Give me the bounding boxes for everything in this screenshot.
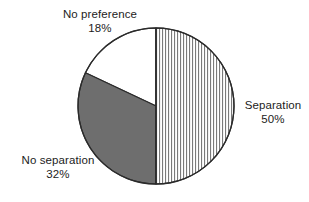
slice-label-no-separation-name: No separation: [6, 154, 110, 168]
pie-slice-separation: [156, 28, 234, 184]
slice-label-no-preference: No preference 18%: [47, 8, 153, 35]
slice-label-no-separation-value: 32%: [6, 168, 110, 182]
slice-label-separation-value: 50%: [239, 113, 307, 127]
slice-label-separation-name: Separation: [239, 99, 307, 113]
slice-label-no-preference-name: No preference: [47, 8, 153, 22]
slice-label-no-preference-value: 18%: [47, 22, 153, 36]
slice-label-no-separation: No separation 32%: [6, 154, 110, 181]
slice-label-separation: Separation 50%: [239, 99, 307, 126]
pie-chart-figure: No preference 18% No separation 32% Sepa…: [0, 0, 309, 202]
